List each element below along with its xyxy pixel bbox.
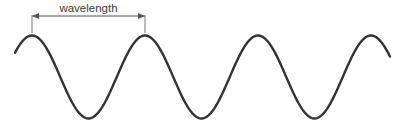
wavelength-dimension: wavelength	[32, 2, 145, 33]
wavelength-diagram: wavelength	[0, 0, 404, 132]
wavelength-label: wavelength	[58, 2, 117, 14]
sine-wave	[15, 36, 390, 119]
